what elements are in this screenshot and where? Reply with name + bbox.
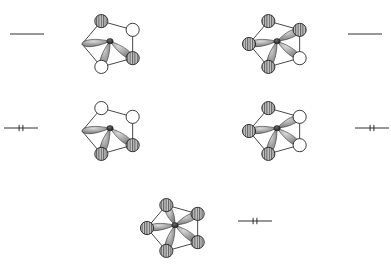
energy-level-level-middle-right <box>355 125 389 131</box>
orbital-psi1 <box>140 199 204 258</box>
energy-level-level-middle-left <box>4 125 38 131</box>
orbital-hub <box>172 223 178 228</box>
orbital-hub <box>107 126 113 131</box>
mo-diagram-canvas <box>0 0 391 265</box>
mo-diagram-figure: Cyclopentadienyl pi molecular orbital di… <box>0 0 391 265</box>
orbital-lobe <box>82 126 110 133</box>
node-hatched <box>191 236 204 249</box>
node-empty <box>293 52 306 65</box>
node-empty <box>126 110 139 123</box>
node-hatched <box>242 124 255 137</box>
orbital-lobe <box>82 39 110 46</box>
node-hatched <box>95 15 108 28</box>
node-hatched <box>262 102 275 115</box>
orbital-psi2 <box>82 102 139 161</box>
node-empty <box>293 110 306 123</box>
energy-levels-layer <box>4 34 389 224</box>
orbitals-layer <box>82 15 306 258</box>
orbital-psi3 <box>242 102 306 161</box>
node-hatched <box>160 199 173 212</box>
orbital-hub <box>274 126 280 131</box>
node-hatched <box>262 147 275 160</box>
orbital-psi4 <box>82 15 139 74</box>
node-hatched <box>140 221 153 234</box>
energy-level-level-bottom-center <box>238 218 272 224</box>
node-empty <box>95 60 108 73</box>
node-hatched <box>126 52 139 65</box>
node-empty <box>95 102 108 115</box>
node-hatched <box>242 37 255 50</box>
node-hatched <box>126 139 139 152</box>
node-hatched <box>160 244 173 257</box>
node-hatched <box>191 207 204 220</box>
orbital-psi5 <box>242 15 306 74</box>
node-hatched <box>262 60 275 73</box>
node-hatched <box>293 23 306 36</box>
orbital-hub <box>107 39 113 44</box>
node-empty <box>126 23 139 36</box>
node-hatched <box>95 147 108 160</box>
node-empty <box>293 139 306 152</box>
orbital-hub <box>274 39 280 44</box>
node-hatched <box>262 15 275 28</box>
